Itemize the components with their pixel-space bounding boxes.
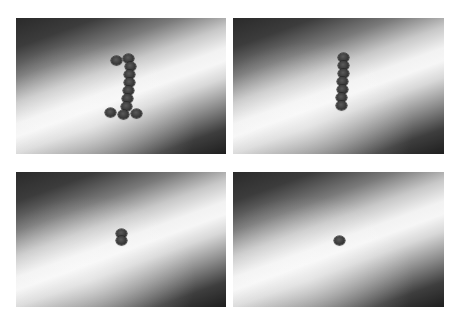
photo-panel-single-coin <box>233 172 444 307</box>
coin <box>118 110 129 119</box>
coin <box>131 109 142 118</box>
coin <box>105 108 116 117</box>
coin <box>336 101 347 110</box>
photo-panel-two-coins <box>16 172 226 307</box>
coin <box>116 236 127 245</box>
coin <box>111 56 122 65</box>
photo-panel-vertical-line <box>233 18 444 154</box>
coin <box>334 236 345 245</box>
photo-panel-numeral-one <box>16 18 226 154</box>
